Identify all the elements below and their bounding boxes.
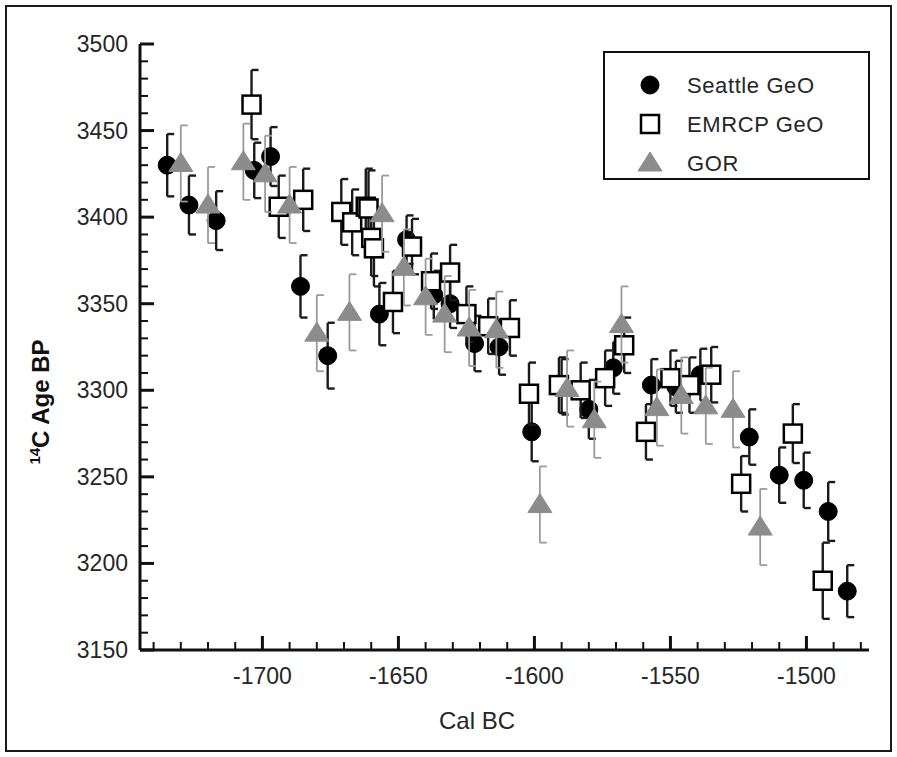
- data-point: [243, 96, 261, 114]
- data-point: [732, 475, 750, 493]
- data-point: [596, 369, 614, 387]
- y-tick-label: 3350: [77, 291, 128, 317]
- data-point: [637, 423, 655, 441]
- y-axis-title-superscript: 14: [26, 447, 43, 464]
- legend-marker-filled-circle: [641, 76, 659, 94]
- legend-marker-open-square: [641, 115, 659, 133]
- y-axis-title-main: C Age BP: [27, 339, 54, 447]
- x-tick-label: -1700: [233, 663, 292, 689]
- data-point: [231, 151, 255, 170]
- data-point: [784, 425, 802, 443]
- svg-text:14C Age BP: 14C Age BP: [26, 339, 54, 464]
- y-axis-ticks: [140, 44, 154, 650]
- data-point: [207, 212, 225, 230]
- y-tick-label: 3450: [77, 118, 128, 144]
- data-point: [795, 471, 813, 489]
- data-point: [645, 397, 669, 416]
- data-point: [819, 502, 837, 520]
- data-point: [748, 516, 772, 535]
- x-tick-label: -1600: [505, 663, 564, 689]
- y-tick-label: 3200: [77, 550, 128, 576]
- legend-label: EMRCP GeO: [687, 112, 824, 137]
- legend-label: GOR: [687, 151, 739, 176]
- legend: Seattle GeOEMRCP GeOGOR: [604, 52, 869, 179]
- x-tick-label: -1650: [369, 663, 428, 689]
- x-tick-label: -1500: [777, 663, 836, 689]
- data-point: [319, 347, 337, 365]
- y-axis-title: 14C Age BP: [26, 339, 54, 464]
- series-seattle-geo: [158, 127, 856, 617]
- y-tick-label: 3400: [77, 204, 128, 230]
- y-axis-tick-labels: 31503200325033003350340034503500: [77, 31, 128, 663]
- data-point: [661, 369, 679, 387]
- y-tick-label: 3150: [77, 637, 128, 663]
- y-tick-label: 3300: [77, 377, 128, 403]
- data-point: [609, 313, 633, 332]
- data-point: [384, 293, 402, 311]
- data-point: [403, 238, 421, 256]
- x-axis-ticks: [154, 636, 861, 650]
- data-point: [770, 466, 788, 484]
- data-point: [615, 336, 633, 354]
- figure-border: 31503200325033003350340034503500 -1700-1…: [5, 5, 892, 752]
- y-tick-label: 3250: [77, 464, 128, 490]
- x-axis-title: Cal BC: [439, 707, 515, 734]
- x-tick-label: -1550: [641, 663, 700, 689]
- data-point: [365, 239, 383, 257]
- data-point: [337, 301, 361, 320]
- data-point: [305, 322, 329, 341]
- data-point: [528, 494, 552, 513]
- data-point: [291, 277, 309, 295]
- figure-page: 31503200325033003350340034503500 -1700-1…: [0, 0, 897, 757]
- data-point: [520, 385, 538, 403]
- data-point: [721, 398, 745, 417]
- data-point: [740, 428, 758, 446]
- data-point: [694, 395, 718, 414]
- data-point: [180, 196, 198, 214]
- radiocarbon-scatter-chart: 31503200325033003350340034503500 -1700-1…: [7, 7, 890, 750]
- data-point: [838, 582, 856, 600]
- legend-label: Seattle GeO: [687, 73, 815, 98]
- x-axis-tick-labels: -1700-1650-1600-1550-1500: [233, 663, 836, 689]
- y-tick-label: 3500: [77, 31, 128, 57]
- data-point: [814, 572, 832, 590]
